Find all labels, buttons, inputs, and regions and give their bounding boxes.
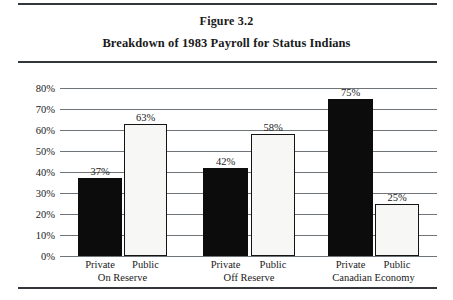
x-axis-labels: PrivatePublicPrivatePublicPrivatePublicO… xyxy=(60,258,437,288)
bar-value-label: 75% xyxy=(341,87,360,98)
figure-title: Breakdown of 1983 Payroll for Status Ind… xyxy=(0,36,453,51)
bar-value-label: 25% xyxy=(387,192,406,203)
x-axis-group-label: Off Reserve xyxy=(179,271,319,284)
bar: 58% xyxy=(251,134,295,256)
x-axis-group-label: Canadian Economy xyxy=(304,271,444,284)
bar: 42% xyxy=(203,168,248,256)
top-divider-rule xyxy=(18,3,437,5)
y-axis-tick-label: 60% xyxy=(36,125,55,136)
y-axis-tick-label: 80% xyxy=(36,83,55,94)
y-axis-tick-label: 50% xyxy=(36,146,55,157)
x-axis-sector-label: Public xyxy=(357,258,437,271)
y-axis-tick-label: 30% xyxy=(36,188,55,199)
bar: 63% xyxy=(124,124,167,256)
gridline: 0% xyxy=(60,256,437,257)
x-axis-group-label: On Reserve xyxy=(53,271,193,284)
bottom-divider-rule xyxy=(18,287,437,289)
x-axis-sector-label: Public xyxy=(233,258,313,271)
x-axis-sector-label: Public xyxy=(106,258,186,271)
y-axis-tick-label: 20% xyxy=(36,209,55,220)
bar-value-label: 42% xyxy=(216,156,235,167)
bar-value-label: 58% xyxy=(263,122,282,133)
figure-number: Figure 3.2 xyxy=(0,14,453,29)
bar-value-label: 63% xyxy=(136,112,155,123)
bar: 37% xyxy=(78,178,122,256)
header-divider-rule xyxy=(18,61,437,63)
y-axis-tick-label: 0% xyxy=(41,251,55,262)
bar-value-label: 37% xyxy=(90,166,109,177)
bar: 75% xyxy=(328,99,373,257)
y-axis-tick-label: 10% xyxy=(36,230,55,241)
figure-page: Figure 3.2 Breakdown of 1983 Payroll for… xyxy=(0,0,453,300)
chart-plot-area: 80%70%60%50%40%30%20%10%0% 37%63%42%58%7… xyxy=(60,88,437,256)
bar-series: 37%63%42%58%75%25% xyxy=(60,88,437,256)
y-axis-tick-label: 40% xyxy=(36,167,55,178)
bar: 25% xyxy=(375,204,419,257)
y-axis-tick-label: 70% xyxy=(36,104,55,115)
